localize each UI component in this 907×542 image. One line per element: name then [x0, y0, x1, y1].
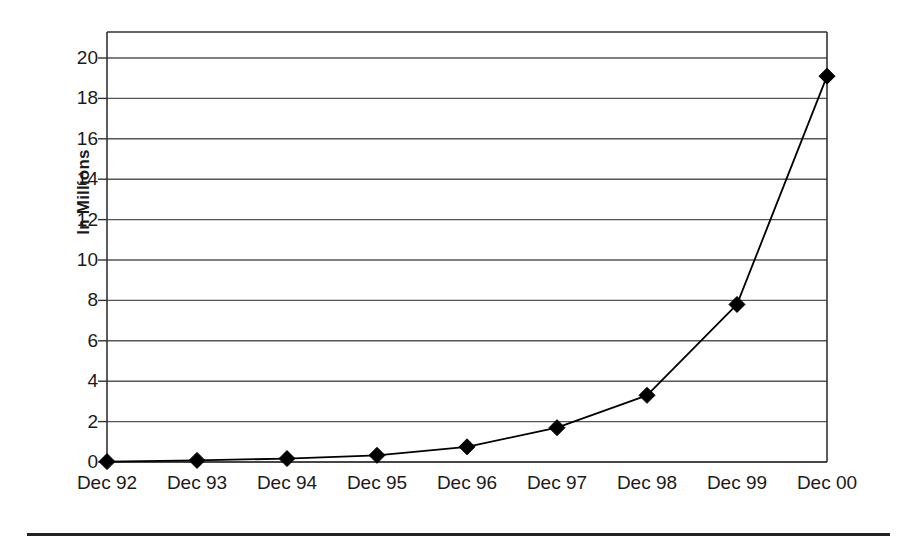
line-chart-figure: In Millions 02468101214161820 Dec 92Dec … — [0, 0, 907, 542]
bottom-rule-divider — [27, 533, 890, 536]
x-axis-tick-labels: Dec 92Dec 93Dec 94Dec 95Dec 96Dec 97Dec … — [0, 0, 907, 542]
x-tick-label: Dec 00 — [767, 472, 887, 494]
